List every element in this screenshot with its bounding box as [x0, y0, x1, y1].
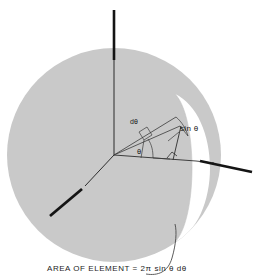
label-theta: θ	[137, 147, 141, 156]
sphere-diagram	[0, 0, 263, 280]
figure-root: sin θ dθ θ AREA OF ELEMENT = 2π sin θ dθ	[0, 0, 263, 280]
figure-caption: AREA OF ELEMENT = 2π sin θ dθ	[47, 264, 187, 273]
label-sin-theta: sin θ	[180, 124, 198, 133]
label-d-theta: dθ	[130, 118, 138, 125]
